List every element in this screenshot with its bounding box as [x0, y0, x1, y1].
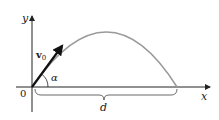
- angle-arc: [42, 74, 49, 87]
- velocity-subscript: 0: [42, 54, 46, 62]
- projectile-diagram: y x 0 v0 α d: [0, 0, 219, 120]
- range-label: d: [100, 101, 107, 114]
- y-axis-label: y: [21, 12, 29, 25]
- angle-label: α: [51, 72, 58, 83]
- range-brace: [35, 89, 177, 100]
- x-axis-label: x: [201, 90, 208, 103]
- origin-label: 0: [20, 88, 26, 99]
- velocity-label: v0: [35, 49, 46, 62]
